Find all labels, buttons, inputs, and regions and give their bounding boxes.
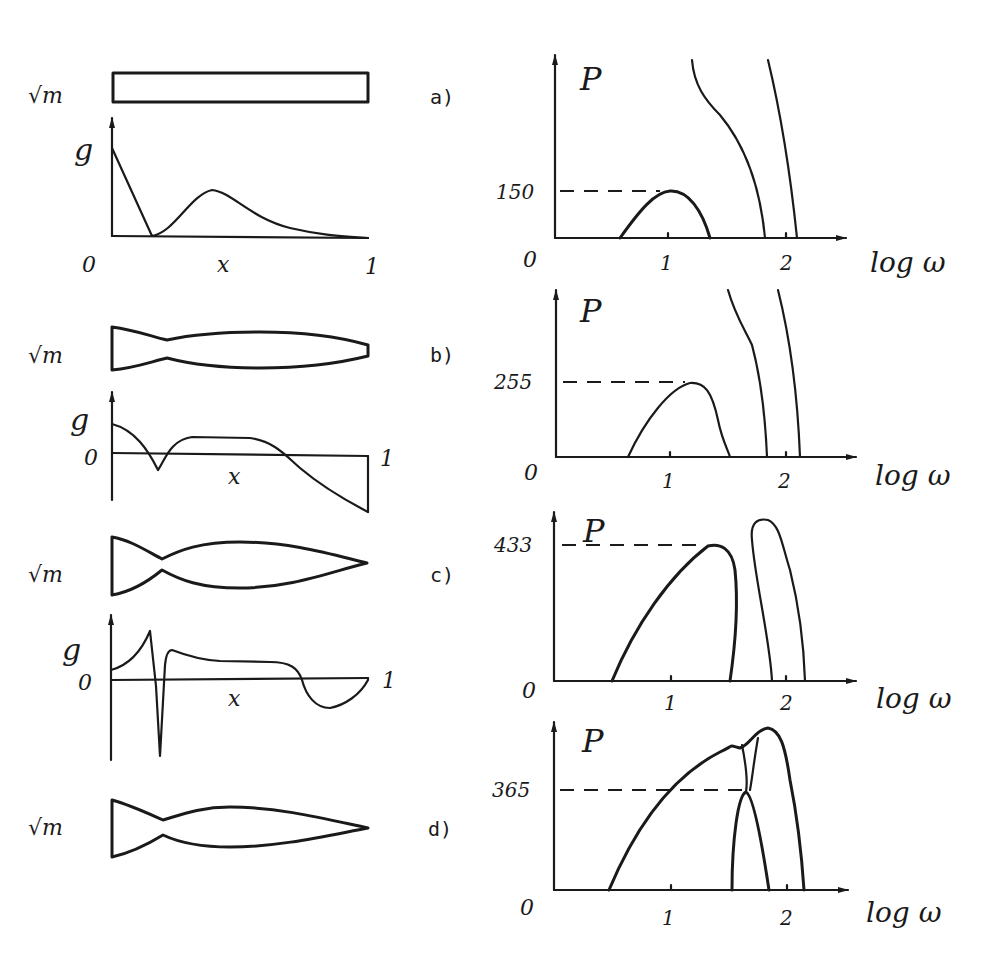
tick-label-2-a: 2	[779, 251, 793, 275]
p-curve-b-3	[778, 290, 800, 457]
tick-label-2-d: 2	[779, 906, 793, 930]
profile-label-a: √m	[28, 83, 63, 108]
mass-profile-d	[112, 800, 368, 857]
panel-label-d: d)	[428, 817, 452, 841]
x-label-b: x	[228, 464, 241, 489]
panel-label-a: a)	[430, 85, 454, 109]
p-origin-b: 0	[524, 460, 538, 485]
panel-c: √m c) g 0 x 1 P 433 0 1 2 log ω	[28, 512, 952, 760]
tick-label-1-c: 1	[664, 691, 677, 715]
logw-label-d: log ω	[866, 896, 942, 929]
mass-profile-a	[113, 73, 368, 102]
g-zero-b: 0	[84, 445, 98, 470]
p-curve-a-1	[620, 191, 710, 238]
logw-label-a: log ω	[870, 246, 946, 279]
x-axis-a	[112, 236, 368, 238]
x-end-a: 1	[365, 254, 379, 279]
g-label-a: g	[74, 132, 93, 167]
figure-canvas: √m a) g 0 x 1 P 150 0 1 2 log ω √m b) g	[0, 0, 992, 976]
p-origin-a: 0	[523, 247, 537, 272]
p-curve-c-2	[752, 520, 805, 681]
p-marker-a: 150	[496, 180, 534, 204]
p-origin-c: 0	[522, 678, 536, 703]
tick-label-2-c: 2	[779, 691, 793, 715]
x-end-b: 1	[380, 446, 394, 471]
p-origin-d: 0	[520, 895, 534, 920]
g-label-b: g	[70, 402, 89, 437]
mass-profile-b	[112, 327, 368, 370]
profile-label-c: √m	[28, 562, 63, 587]
panel-label-b: b)	[430, 343, 454, 367]
panel-d: √m d) P 365 0 1 2 log ω	[28, 722, 942, 930]
p-label-b: P	[579, 292, 602, 330]
p-marker-b: 255	[493, 370, 532, 394]
p-curve-d-inner	[732, 792, 769, 890]
tick-label-2-b: 2	[777, 469, 791, 493]
p-curve-b-1	[628, 383, 730, 457]
tick-label-1-a: 1	[660, 251, 673, 275]
profile-label-b: √m	[28, 343, 63, 368]
p-curve-c-1	[612, 545, 736, 681]
g-curve-a	[112, 148, 368, 238]
p-curve-a-2	[692, 60, 765, 238]
panel-b: √m b) g 0 x 1 P 255 0 1 2 log ω	[28, 290, 951, 512]
x-end-c: 1	[382, 668, 396, 693]
p-curve-d-outer	[609, 728, 804, 890]
panel-label-c: c)	[430, 563, 454, 587]
x-label-a: x	[217, 252, 230, 277]
p-curve-a-3	[768, 60, 797, 238]
tick-label-1-d: 1	[662, 906, 675, 930]
g-label-c: g	[62, 632, 81, 667]
logw-label-c: log ω	[876, 682, 952, 715]
x-label-c: x	[228, 686, 241, 711]
tick-label-1-b: 1	[662, 469, 675, 493]
x-start-a: 0	[82, 252, 96, 277]
panel-a: √m a) g 0 x 1 P 150 0 1 2 log ω	[28, 55, 946, 279]
p-marker-c: 433	[493, 533, 532, 557]
p-curve-b-2	[728, 290, 767, 457]
profile-label-d: √m	[28, 815, 63, 840]
logw-label-b: log ω	[875, 459, 951, 492]
p-label-d: P	[581, 722, 604, 760]
p-label-a: P	[579, 60, 602, 98]
mass-profile-c	[112, 537, 367, 595]
x-axis-c	[111, 678, 368, 680]
g-zero-c: 0	[78, 670, 92, 695]
p-marker-d: 365	[492, 778, 530, 802]
